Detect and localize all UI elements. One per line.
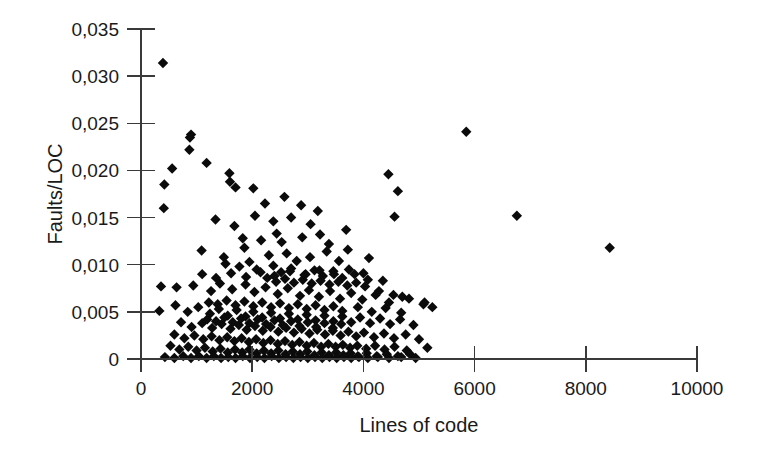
data-point-marker xyxy=(188,280,198,290)
data-point-marker xyxy=(364,253,374,263)
data-point-marker xyxy=(266,302,276,312)
data-point-marker xyxy=(154,306,164,316)
data-point-marker xyxy=(198,334,208,344)
data-point-marker xyxy=(268,216,278,226)
y-axis-title: Faults/LOC xyxy=(44,143,66,244)
data-point-marker xyxy=(241,272,251,282)
data-point-marker xyxy=(197,269,207,279)
data-point-marker xyxy=(176,317,186,327)
data-point-marker xyxy=(335,293,345,303)
data-point-marker xyxy=(201,353,211,363)
data-point-marker xyxy=(305,219,315,229)
data-point-marker xyxy=(167,163,177,173)
x-tick-label: 0 xyxy=(136,378,147,399)
data-point-marker xyxy=(427,302,437,312)
data-point-marker xyxy=(249,287,259,297)
data-point-marker xyxy=(286,212,296,222)
data-point-marker xyxy=(171,282,181,292)
data-points-layer xyxy=(154,58,615,364)
chart-canvas: 00,0050,0100,0150,0200,0250,0300,0350200… xyxy=(0,0,759,451)
data-point-marker xyxy=(305,252,315,262)
data-point-marker xyxy=(378,276,388,286)
data-point-marker xyxy=(284,303,294,313)
data-point-marker xyxy=(408,320,418,330)
data-point-marker xyxy=(250,210,260,220)
data-point-marker xyxy=(365,318,375,328)
data-point-marker xyxy=(248,301,258,311)
data-point-marker xyxy=(229,221,239,231)
x-tick-label: 6000 xyxy=(453,378,495,399)
data-point-marker xyxy=(297,232,307,242)
data-point-marker xyxy=(324,239,334,249)
data-point-marker xyxy=(268,260,278,270)
y-tick-label: 0 xyxy=(108,349,119,370)
data-point-marker xyxy=(337,306,347,316)
data-point-marker xyxy=(291,256,301,266)
data-point-marker xyxy=(370,341,380,351)
data-point-marker xyxy=(184,144,194,154)
data-point-marker xyxy=(227,284,237,294)
data-point-marker xyxy=(260,198,270,208)
data-point-marker xyxy=(389,342,399,352)
data-point-marker xyxy=(271,228,281,238)
data-point-marker xyxy=(373,352,383,362)
data-point-marker xyxy=(396,308,406,318)
data-point-marker xyxy=(158,58,168,68)
data-point-marker xyxy=(319,305,329,315)
data-point-marker xyxy=(186,322,196,332)
data-point-marker xyxy=(238,233,248,243)
data-point-marker xyxy=(239,296,249,306)
data-point-marker xyxy=(375,313,385,323)
data-point-marker xyxy=(226,268,236,278)
data-point-marker xyxy=(244,257,254,267)
data-point-marker xyxy=(367,307,377,317)
data-point-marker xyxy=(183,307,193,317)
data-point-marker xyxy=(189,330,199,340)
data-point-marker xyxy=(169,329,179,339)
data-point-marker xyxy=(196,245,206,255)
data-point-marker xyxy=(385,319,395,329)
data-point-marker xyxy=(279,192,289,202)
data-point-marker xyxy=(343,244,353,254)
data-point-marker xyxy=(400,329,410,339)
data-point-marker xyxy=(389,211,399,221)
data-point-marker xyxy=(156,281,166,291)
data-point-marker xyxy=(389,333,399,343)
data-point-marker xyxy=(324,279,334,289)
y-tick-label: 0,035 xyxy=(71,19,119,40)
y-tick-label: 0,010 xyxy=(71,255,119,276)
data-point-marker xyxy=(355,312,365,322)
data-point-marker xyxy=(248,183,258,193)
data-point-marker xyxy=(301,304,311,314)
data-point-marker xyxy=(165,341,175,351)
data-point-marker xyxy=(260,282,270,292)
data-point-marker xyxy=(313,206,323,216)
data-point-marker xyxy=(169,353,179,363)
data-point-marker xyxy=(170,300,180,310)
data-point-marker xyxy=(341,225,351,235)
data-point-marker xyxy=(201,158,211,168)
data-point-marker xyxy=(160,352,170,362)
data-point-marker xyxy=(193,302,203,312)
data-point-marker xyxy=(234,261,244,271)
data-point-marker xyxy=(295,291,305,301)
data-point-marker xyxy=(379,328,389,338)
data-point-marker xyxy=(322,246,332,256)
data-point-marker xyxy=(275,298,285,308)
x-tick-label: 4000 xyxy=(342,378,384,399)
data-point-marker xyxy=(293,299,303,309)
data-point-marker xyxy=(257,297,267,307)
data-point-marker xyxy=(204,297,214,307)
x-tick-label: 2000 xyxy=(231,378,273,399)
data-point-marker xyxy=(281,248,291,258)
x-tick-label: 10000 xyxy=(671,378,724,399)
data-point-marker xyxy=(264,250,274,260)
data-point-marker xyxy=(334,256,344,266)
data-point-marker xyxy=(605,243,615,253)
data-point-marker xyxy=(206,286,216,296)
data-point-marker xyxy=(512,210,522,220)
y-tick-label: 0,020 xyxy=(71,160,119,181)
data-point-marker xyxy=(352,341,362,351)
data-point-marker xyxy=(276,237,286,247)
y-tick-label: 0,025 xyxy=(71,113,119,134)
